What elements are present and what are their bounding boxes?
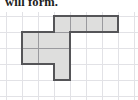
net-cell — [70, 16, 86, 32]
net-outline-edge — [69, 31, 87, 33]
net-outline-edge — [69, 63, 71, 81]
net-cell — [22, 48, 38, 64]
net-outline-edge — [117, 15, 119, 33]
grid-canvas — [0, 12, 138, 100]
net-cell — [38, 48, 54, 64]
net-inner-line — [86, 16, 87, 32]
net-cell — [102, 16, 118, 32]
net-outline-edge — [53, 79, 71, 81]
net-outline-edge — [101, 15, 119, 17]
net-outline-edge — [53, 15, 55, 33]
grid-line-vertical — [134, 12, 135, 100]
grid-line-vertical — [6, 12, 7, 100]
net-cell — [54, 16, 70, 32]
net-outline-edge — [21, 63, 39, 65]
net-outline-edge — [21, 47, 23, 65]
net-outline-edge — [69, 15, 87, 17]
net-outline-edge — [69, 47, 71, 65]
grid-line-horizontal — [0, 96, 138, 97]
net-cell — [86, 16, 102, 32]
net-outline-edge — [101, 31, 119, 33]
net-inner-line — [22, 48, 70, 49]
net-cell — [38, 32, 54, 48]
net-cell — [54, 48, 70, 64]
net-outline-edge — [21, 31, 39, 33]
net-outline-edge — [85, 31, 103, 33]
net-cell — [54, 64, 70, 80]
net-outline-edge — [69, 31, 71, 49]
net-inner-line — [54, 32, 70, 33]
net-inner-line — [70, 16, 71, 32]
net-outline-edge — [37, 63, 55, 65]
net-outline-edge — [37, 31, 55, 33]
net-outline-edge — [53, 63, 55, 81]
net-cell — [22, 32, 38, 48]
net-inner-line — [102, 16, 103, 32]
net-outline-edge — [85, 15, 103, 17]
caption-text: will form. — [5, 0, 135, 11]
net-outline-edge — [53, 15, 71, 17]
net-cell — [54, 32, 70, 48]
figure-page: will form. — [0, 0, 138, 100]
net-outline-edge — [21, 31, 23, 49]
